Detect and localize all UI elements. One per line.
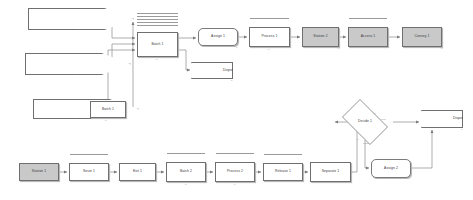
queue-indicator-seize1 [70, 154, 108, 157]
node-access1[interactable]: Access 1 [348, 27, 388, 47]
node-label-release1: Release 1 [275, 170, 291, 173]
node-dispose2[interactable]: Dispose 2 [421, 110, 463, 128]
node-label-assign1: Assign 1 [211, 35, 225, 38]
entity-counter-c-create3: 0 [76, 118, 77, 120]
entity-counter-c-batch1b: 0 [105, 120, 106, 122]
node-station2[interactable]: Station 2 [302, 27, 339, 47]
node-label-station1: Station 1 [32, 170, 46, 173]
entity-counter-c-separate1: 0 [351, 172, 352, 174]
entity-counter-c-process2: 0 [234, 184, 235, 186]
node-label-dispose1: Dispose 1 [223, 69, 239, 72]
node-label-batch1: Batch 1 [151, 43, 163, 46]
node-batch2[interactable]: Batch 2 [166, 162, 206, 182]
node-label-seize1: Seize 1 [83, 170, 95, 173]
node-label-batch1b: Batch 1 [102, 108, 114, 111]
entity-counter-c-process1: 0 [268, 49, 269, 51]
entity-counter-c-create1: 0 [78, 29, 79, 31]
branch-label-decide-false2: False [363, 143, 369, 145]
node-decide1[interactable]: Decide 1 [337, 104, 393, 140]
node-label-dispose2: Dispose 2 [453, 117, 469, 120]
node-label-exit1: Exit 1 [133, 170, 142, 173]
node-label-assign2: Assign 2 [384, 167, 398, 170]
connector-batch1-to-dispose1 [178, 50, 190, 70]
node-seize1[interactable]: Seize 1 [69, 163, 109, 181]
node-label-station2: Station 2 [313, 35, 327, 38]
connector-assign2-to-dispose2 [411, 130, 432, 168]
node-label-convey1: Convey 1 [414, 35, 429, 38]
branch-label-decide-true: 0 [374, 113, 375, 115]
branch-label-decide-true2: True [381, 119, 386, 121]
node-process1[interactable]: Process 1 [249, 27, 290, 47]
entity-counter-c-convey1: 0 [441, 48, 442, 50]
node-label-process1: Process 1 [262, 35, 278, 38]
queue-indicator-batch2 [167, 153, 205, 156]
entity-counter-c-create2: 0 [75, 74, 76, 76]
node-batch1[interactable]: Batch 1 [137, 32, 178, 57]
node-label-access1: Access 1 [361, 35, 376, 38]
queue-indicator-process2 [216, 153, 254, 156]
node-release1[interactable]: Release 1 [263, 163, 303, 181]
node-label-process2: Process 2 [227, 170, 243, 173]
entity-counter-c-assign1: 0 [236, 47, 237, 49]
node-process2[interactable]: Process 2 [215, 162, 255, 182]
queue-indicator-process1 [250, 18, 289, 21]
queue-indicator-access1 [349, 18, 387, 21]
node-assign2[interactable]: Assign 2 [371, 159, 411, 178]
node-batch1b[interactable]: Batch 1 [90, 101, 126, 118]
queue-indicator-batch1 [137, 13, 178, 28]
node-dispose1[interactable]: Dispose 1 [191, 62, 233, 79]
node-label-create3: Create 3 [136, 107, 150, 110]
node-create2[interactable]: Create 2 [25, 53, 131, 75]
node-station1[interactable]: Station 1 [19, 163, 59, 181]
node-separate1[interactable]: Separate 1 [310, 162, 351, 182]
diamond-shape [342, 99, 388, 145]
entity-counter-c-station2: 0 [338, 48, 339, 50]
entity-counter-c-dispose2: 0 [461, 129, 462, 131]
entity-counter-c-batch1: 0 [156, 59, 157, 61]
node-exit1[interactable]: Exit 1 [119, 163, 156, 181]
branch-label-decide-false: 0 [357, 139, 358, 141]
node-label-separate1: Separate 1 [322, 170, 340, 173]
node-convey1[interactable]: Convey 1 [402, 27, 442, 47]
node-create1[interactable]: Create 1 [28, 8, 134, 30]
queue-indicator-release1 [264, 154, 302, 157]
node-label-create2: Create 2 [128, 62, 142, 65]
flowchart-canvas[interactable]: Create 1Create 2Create 3Batch 1Batch 1As… [0, 0, 473, 200]
node-assign1[interactable]: Assign 1 [198, 28, 238, 46]
node-label-batch2: Batch 2 [180, 170, 192, 173]
entity-counter-c-dispose1: 0 [231, 80, 232, 82]
connector-batch1b-to-batch1 [126, 22, 133, 109]
entity-counter-c-batch2: 0 [185, 184, 186, 186]
